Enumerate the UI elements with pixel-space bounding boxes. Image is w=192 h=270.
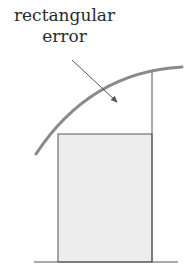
approximating-rectangle: [58, 134, 152, 262]
diagram-canvas: [0, 0, 192, 270]
